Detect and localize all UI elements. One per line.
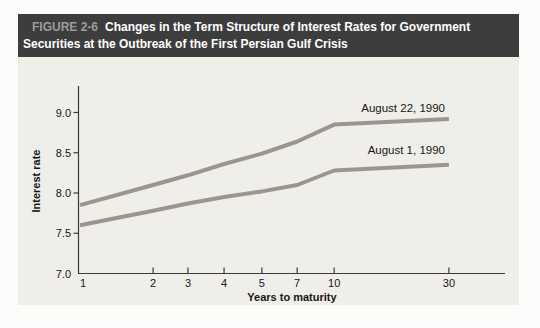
y-tick-label: 7.5 [56,227,71,239]
x-tick-label: 10 [328,277,340,289]
x-tick-label: 1 [80,277,86,289]
y-tick-label: 8.5 [56,147,71,159]
y-tick-label: 8.0 [56,187,71,199]
x-tick-label: 5 [259,277,265,289]
page: FIGURE 2-6Changes in the Term Structure … [0,0,540,328]
series-line-1 [80,165,449,225]
y-tick-label: 9.0 [56,107,71,119]
term-structure-chart: 7.07.58.08.59.01234571030Years to maturi… [0,0,540,328]
x-tick-label: 4 [221,277,227,289]
series-label-0: August 22, 1990 [361,102,445,114]
y-tick-label: 7.0 [56,268,71,280]
series-label-1: August 1, 1990 [368,144,445,156]
y-axis-title: Interest rate [30,150,42,213]
x-tick-label: 30 [443,277,455,289]
x-tick-label: 3 [185,277,191,289]
x-axis-title: Years to maturity [247,291,337,303]
x-tick-label: 2 [150,277,156,289]
x-tick-label: 7 [294,277,300,289]
